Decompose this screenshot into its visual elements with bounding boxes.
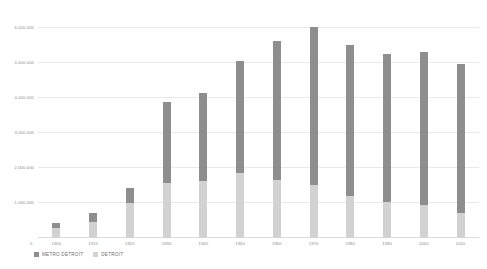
- legend-swatch-metro-detroit: [34, 252, 39, 257]
- y-axis-tick-label: 2,000,000: [14, 165, 34, 170]
- bar-segment-metro-detroit[interactable]: [273, 41, 281, 180]
- x-axis-tick-label: 1990: [382, 241, 392, 246]
- bar-segment-detroit[interactable]: [199, 181, 207, 238]
- y-axis-tick-label: 1,000,000: [14, 200, 34, 205]
- bar-segment-metro-detroit[interactable]: [420, 52, 428, 205]
- plot-area: 1,000,0002,000,0003,000,0004,000,0005,00…: [38, 18, 479, 238]
- bar-group[interactable]: 1960: [273, 41, 281, 238]
- bar-segment-detroit[interactable]: [346, 196, 354, 238]
- bar-group[interactable]: 1920: [126, 188, 134, 238]
- x-axis-tick-label: 1980: [346, 241, 356, 246]
- y-axis-zero-label: 0: [30, 241, 32, 246]
- bar-group[interactable]: 1970: [310, 27, 318, 238]
- bar-group[interactable]: 1980: [346, 45, 354, 238]
- y-axis-tick-label: 5,000,000: [14, 60, 34, 65]
- x-axis-tick-label: 1920: [125, 241, 135, 246]
- x-axis-tick-label: 1930: [162, 241, 172, 246]
- x-axis-tick-label: 1910: [88, 241, 98, 246]
- bar-segment-metro-detroit[interactable]: [89, 213, 97, 222]
- legend-label-detroit: DETROIT: [101, 252, 123, 257]
- bar-segment-detroit[interactable]: [420, 205, 428, 238]
- bar-segment-detroit[interactable]: [310, 185, 318, 238]
- y-axis-tick-label: 3,000,000: [14, 130, 34, 135]
- bar-segment-metro-detroit[interactable]: [383, 54, 391, 202]
- bar-group[interactable]: 1950: [236, 61, 244, 238]
- bar-group[interactable]: 2000: [420, 52, 428, 238]
- bar-segment-detroit[interactable]: [52, 228, 60, 238]
- bar-group[interactable]: 1940: [199, 93, 207, 238]
- bar-segment-detroit[interactable]: [126, 203, 134, 238]
- bar-segment-detroit[interactable]: [163, 183, 171, 238]
- bar-segment-detroit[interactable]: [457, 213, 465, 238]
- legend-item-metro-detroit[interactable]: METRO DETROIT: [34, 252, 83, 257]
- chart-legend: METRO DETROIT DETROIT: [34, 252, 123, 257]
- legend-swatch-detroit: [93, 252, 98, 257]
- bars-layer: 1900191019201930194019501960197019801990…: [38, 18, 479, 238]
- bar-segment-metro-detroit[interactable]: [310, 27, 318, 185]
- bar-group[interactable]: 1990: [383, 54, 391, 238]
- bar-segment-detroit[interactable]: [89, 222, 97, 238]
- x-axis-tick-label: 2010: [456, 241, 466, 246]
- stacked-bar-chart: 1,000,0002,000,0003,000,0004,000,0005,00…: [0, 0, 487, 269]
- bar-group[interactable]: 1910: [89, 213, 97, 238]
- x-axis-tick-label: 2000: [419, 241, 429, 246]
- y-axis-tick-label: 4,000,000: [14, 95, 34, 100]
- x-axis-tick-label: 1970: [309, 241, 319, 246]
- bar-segment-metro-detroit[interactable]: [346, 45, 354, 196]
- bar-group[interactable]: 1900: [52, 223, 60, 238]
- bar-segment-metro-detroit[interactable]: [457, 64, 465, 213]
- bar-segment-detroit[interactable]: [273, 180, 281, 238]
- bar-segment-metro-detroit[interactable]: [199, 93, 207, 181]
- bar-segment-metro-detroit[interactable]: [163, 102, 171, 183]
- legend-label-metro-detroit: METRO DETROIT: [42, 252, 83, 257]
- y-axis-tick-label: 6,000,000: [14, 25, 34, 30]
- bar-group[interactable]: 1930: [163, 102, 171, 238]
- legend-item-detroit[interactable]: DETROIT: [93, 252, 123, 257]
- bar-segment-metro-detroit[interactable]: [126, 188, 134, 203]
- x-axis-tick-label: 1900: [52, 241, 62, 246]
- x-axis-tick-label: 1940: [199, 241, 209, 246]
- bar-segment-detroit[interactable]: [236, 173, 244, 238]
- x-axis-tick-label: 1960: [272, 241, 282, 246]
- bar-group[interactable]: 2010: [457, 64, 465, 238]
- bar-segment-detroit[interactable]: [383, 202, 391, 238]
- x-axis-tick-label: 1950: [235, 241, 245, 246]
- bar-segment-metro-detroit[interactable]: [236, 61, 244, 173]
